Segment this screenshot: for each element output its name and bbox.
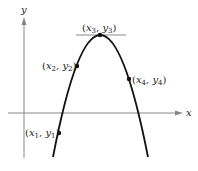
point-2-label: (x2, y2) [42, 60, 77, 73]
point-3-marker [98, 33, 102, 37]
point-1-label: (x1, y1) [25, 127, 60, 140]
y-axis-label: y [20, 4, 27, 15]
x-axis-arrow-icon [175, 111, 183, 116]
x-axis: x [8, 107, 192, 118]
point-4-label: (x4, y4) [132, 74, 167, 87]
point-4-marker [127, 77, 131, 81]
parabola-diagram: y x (x1, y1) (x2, y2) (x3, y3) (x4, y4) [0, 0, 198, 171]
y-axis-arrow-icon [22, 17, 27, 25]
x-axis-label: x [186, 107, 192, 118]
parabola-curve [53, 35, 148, 157]
